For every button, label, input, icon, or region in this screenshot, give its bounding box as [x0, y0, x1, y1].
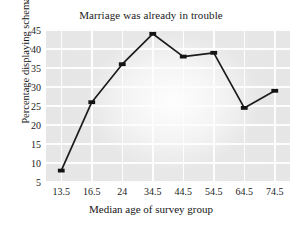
x-axis-label: Median age of survey group — [0, 203, 302, 215]
y-tick-label: 30 — [19, 82, 41, 93]
y-tick-label: 15 — [19, 139, 41, 150]
y-tick-label: 20 — [19, 120, 41, 131]
y-tick-label: 25 — [19, 101, 41, 112]
y-tick-label: 40 — [19, 44, 41, 55]
y-tick-label: 5 — [19, 177, 41, 188]
x-tick-label: 74.5 — [255, 186, 295, 197]
y-tick-label: 45 — [19, 25, 41, 36]
chart-title: Marriage was already in trouble — [0, 9, 302, 21]
x-axis-ticks: 13.516.52434.544.554.564.574.5 — [46, 30, 290, 182]
y-tick-label: 10 — [19, 158, 41, 169]
y-tick-label: 35 — [19, 63, 41, 74]
chart-figure: Marriage was already in trouble Percenta… — [0, 0, 302, 226]
